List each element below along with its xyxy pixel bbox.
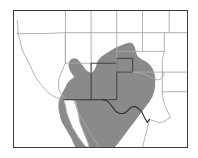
map-frame bbox=[13, 10, 188, 148]
coastline-mexico-east bbox=[143, 119, 150, 147]
range-map-figure bbox=[0, 0, 198, 158]
range-polygon-main bbox=[58, 43, 155, 147]
state-line-oregon-california bbox=[17, 33, 65, 34]
map-canvas bbox=[14, 11, 187, 147]
coastline-gulf-texas bbox=[149, 117, 170, 122]
state-line-missouri-west bbox=[162, 33, 164, 72]
